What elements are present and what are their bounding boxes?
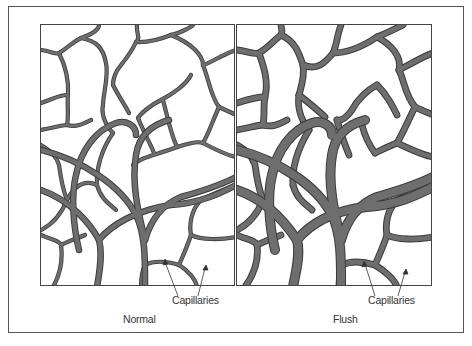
- capillary-network-normal: [41, 25, 235, 286]
- capillaries-label-flush: Capillaries: [368, 294, 415, 306]
- capillaries-label-normal: Capillaries: [172, 294, 219, 306]
- capillary-network-flush: [237, 25, 432, 286]
- panel-flush: [236, 24, 432, 286]
- panel-title-flush: Flush: [333, 313, 358, 325]
- panel-title-normal: Normal: [123, 313, 156, 325]
- panel-normal: [40, 24, 235, 286]
